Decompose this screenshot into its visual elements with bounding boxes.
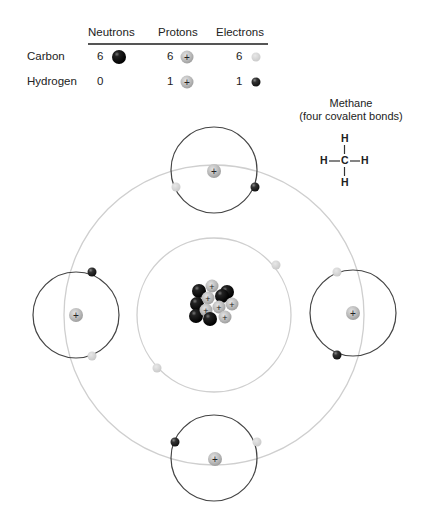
svg-text:+: +: [212, 454, 218, 465]
legend-proton-icon-carbon: +: [181, 51, 194, 64]
carbon-electron: [172, 183, 181, 192]
carbon-electron: [253, 438, 262, 447]
legend-carbon-electron-icon: [252, 53, 261, 62]
carbon-electron: [333, 268, 342, 277]
hydrogen-proton-top: +: [207, 164, 221, 178]
methane-atom-diagram: + + + + + +: [0, 0, 422, 524]
hydrogen-electron: [171, 438, 180, 447]
svg-text:+: +: [184, 77, 190, 88]
hydrogen-proton-bottom: +: [208, 452, 222, 466]
carbon-electron: [88, 352, 97, 361]
svg-text:+: +: [222, 313, 227, 323]
svg-text:+: +: [229, 300, 234, 310]
legend-proton-icon-hydrogen: +: [181, 76, 194, 89]
carbon-nucleus: + + + + + +: [189, 280, 239, 327]
hydrogen-electron: [88, 268, 97, 277]
hydrogen-electron: [333, 351, 342, 360]
legend-neutron-icon: [112, 50, 126, 64]
carbon-inner-electron: [272, 261, 281, 270]
svg-text:+: +: [211, 166, 217, 177]
svg-text:+: +: [216, 303, 221, 313]
bond-lines: [329, 145, 360, 176]
svg-text:+: +: [73, 310, 79, 321]
svg-text:+: +: [205, 294, 210, 304]
svg-text:+: +: [184, 52, 190, 63]
hydrogen-proton-right: +: [346, 306, 360, 320]
hydrogen-proton-left: +: [69, 308, 83, 322]
carbon-inner-electron: [153, 364, 162, 373]
legend-hydrogen-electron-icon: [252, 78, 261, 87]
svg-text:+: +: [209, 282, 214, 292]
svg-text:+: +: [350, 308, 356, 319]
hydrogen-electron: [251, 183, 260, 192]
